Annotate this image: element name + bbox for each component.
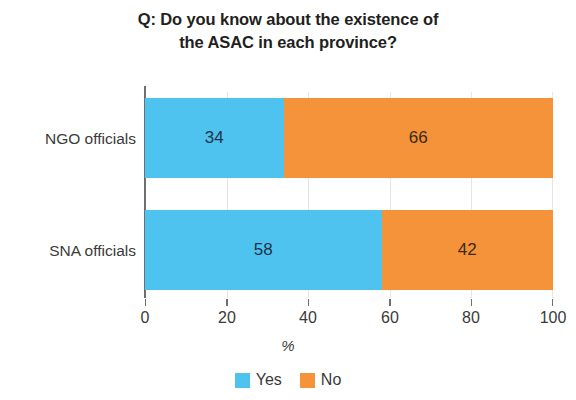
chart-legend: Yes No [0, 372, 576, 388]
legend-item-no[interactable]: No [300, 372, 341, 388]
bar-row-ngo-officials: 34 66 [145, 98, 553, 178]
y-tick-label-sna-officials: SNA officials [8, 242, 136, 260]
legend-swatch-yes-icon [235, 373, 250, 388]
x-tick-mark-60 [389, 299, 390, 306]
legend-label-no: No [321, 372, 341, 388]
x-tick-mark-80 [471, 299, 472, 306]
bar-label-sna-yes: 58 [254, 240, 273, 260]
legend-item-yes[interactable]: Yes [235, 372, 282, 388]
bar-label-ngo-no: 66 [409, 128, 428, 148]
bar-segment-ngo-no[interactable]: 66 [284, 98, 553, 178]
bar-row-sna-officials: 58 42 [145, 210, 553, 290]
x-tick-label-20: 20 [197, 309, 257, 327]
bar-segment-sna-yes[interactable]: 58 [145, 210, 382, 290]
bar-label-ngo-yes: 34 [205, 128, 224, 148]
x-tick-label-0: 0 [115, 309, 175, 327]
bar-label-sna-no: 42 [458, 240, 477, 260]
y-tick-label-ngo-officials: NGO officials [8, 130, 136, 148]
chart-title-line-2: the ASAC in each province? [0, 31, 576, 54]
x-tick-label-40: 40 [278, 309, 338, 327]
x-axis-title: % [0, 337, 576, 354]
plot-area: 34 66 58 42 [145, 92, 553, 298]
x-tick-mark-100 [552, 299, 553, 306]
bar-segment-sna-no[interactable]: 42 [382, 210, 553, 290]
x-tick-label-100: 100 [523, 309, 576, 327]
x-tick-mark-20 [226, 299, 227, 306]
x-tick-label-60: 60 [360, 309, 420, 327]
x-tick-mark-40 [308, 299, 309, 306]
chart-title: Q: Do you know about the existence of th… [0, 8, 576, 55]
x-tick-mark-0 [145, 299, 146, 306]
legend-swatch-no-icon [300, 373, 315, 388]
x-tick-label-80: 80 [441, 309, 501, 327]
bar-segment-ngo-yes[interactable]: 34 [145, 98, 284, 178]
chart-title-line-1: Q: Do you know about the existence of [0, 8, 576, 31]
legend-label-yes: Yes [256, 372, 282, 388]
